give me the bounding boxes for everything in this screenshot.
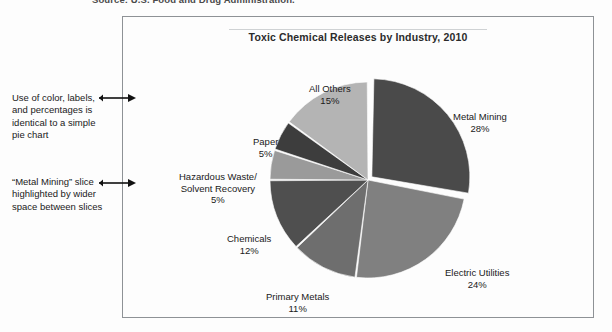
title-rule [229, 29, 487, 30]
arrow-right-icon [98, 93, 136, 103]
annotation-color-labels: Use of color, labels, and percentages is… [12, 92, 104, 142]
slice-label-all-others-percent: 15% [309, 95, 351, 107]
slice-label-primary-metals: Primary Metals 11% [266, 291, 329, 314]
slice-label-hazardous-waste-percent: 5% [179, 194, 257, 206]
pie-slice [372, 79, 470, 193]
chart-title: Toxic Chemical Releases by Industry, 201… [123, 31, 593, 43]
slice-label-hazardous-waste: Hazardous Waste/ Solvent Recovery 5% [179, 171, 257, 206]
slice-label-paper-name: Paper [253, 136, 278, 147]
annotation-exploded-slice: “Metal Mining” slice highlighted by wide… [12, 176, 104, 213]
arrow-right-icon [98, 178, 136, 188]
slice-label-paper: Paper 5% [253, 136, 278, 159]
slice-label-metal-mining-name: Metal Mining [453, 111, 507, 122]
slice-label-electric-utilities: Electric Utilities 24% [445, 267, 509, 290]
slice-label-primary-metals-percent: 11% [266, 303, 329, 315]
slice-label-electric-utilities-name: Electric Utilities [445, 267, 509, 278]
slice-label-chemicals-percent: 12% [227, 245, 271, 257]
slice-label-metal-mining-percent: 28% [453, 123, 507, 135]
pie-slices [270, 79, 470, 278]
slice-label-metal-mining: Metal Mining 28% [453, 111, 507, 134]
figure-frame: Toxic Chemical Releases by Industry, 201… [122, 16, 594, 318]
slice-label-chemicals-name: Chemicals [227, 233, 271, 244]
slice-label-hazardous-waste-line2: Solvent Recovery [179, 183, 257, 195]
slice-label-chemicals: Chemicals 12% [227, 233, 271, 256]
slice-label-primary-metals-name: Primary Metals [266, 291, 329, 302]
slice-label-all-others-name: All Others [309, 83, 351, 94]
slice-label-all-others: All Others 15% [309, 83, 351, 106]
pie-chart [263, 75, 473, 285]
slice-label-electric-utilities-percent: 24% [445, 279, 509, 291]
source-caption: Source: U.S. Food and Drug Administratio… [92, 0, 295, 5]
pie-svg [263, 75, 473, 285]
slice-label-paper-percent: 5% [253, 148, 278, 160]
pie-slice [356, 180, 464, 278]
slice-label-hazardous-waste-line1: Hazardous Waste/ [179, 171, 257, 182]
